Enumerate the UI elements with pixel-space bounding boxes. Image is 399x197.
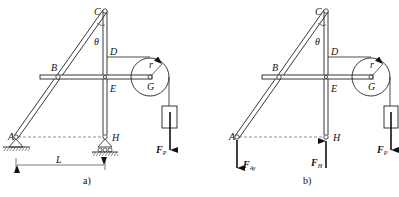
- angle-arc: [318, 23, 326, 26]
- label-e: E: [330, 83, 337, 94]
- label-fh: FH: [310, 157, 323, 169]
- label-c: C: [94, 6, 101, 17]
- rod-ac: [235, 10, 328, 138]
- rod-ch: [324, 11, 328, 135]
- label-r: r: [370, 59, 374, 70]
- label-r: r: [149, 59, 153, 70]
- panel-a: C θ D B E G r A H L FP a): [3, 6, 177, 187]
- caption-b: b): [303, 175, 311, 187]
- label-b: B: [51, 62, 57, 73]
- label-e: E: [109, 83, 116, 94]
- angle-arc: [97, 23, 105, 26]
- label-h: H: [332, 132, 341, 143]
- rod-ac: [14, 10, 107, 138]
- label-theta: θ: [315, 36, 320, 47]
- panel-b: C θ D B E G r A H FAy FH FP b): [228, 6, 398, 187]
- label-h: H: [111, 132, 120, 143]
- label-theta: θ: [94, 36, 99, 47]
- rope: [107, 57, 169, 106]
- label-fp: FP: [155, 144, 167, 156]
- label-a: A: [7, 131, 15, 142]
- label-b: B: [272, 62, 278, 73]
- label-d: D: [109, 46, 118, 57]
- label-g: G: [368, 81, 375, 92]
- label-g: G: [147, 81, 154, 92]
- label-l: L: [55, 154, 62, 165]
- label-fp: FP: [376, 144, 388, 156]
- label-a: A: [228, 131, 236, 142]
- caption-a: a): [83, 175, 91, 187]
- label-d: D: [330, 46, 339, 57]
- rope: [328, 57, 390, 106]
- label-fay: FAy: [242, 159, 256, 171]
- label-c: C: [315, 6, 322, 17]
- statics-figure: C θ D B E G r A H L FP a): [0, 0, 399, 197]
- rod-ch: [103, 11, 107, 135]
